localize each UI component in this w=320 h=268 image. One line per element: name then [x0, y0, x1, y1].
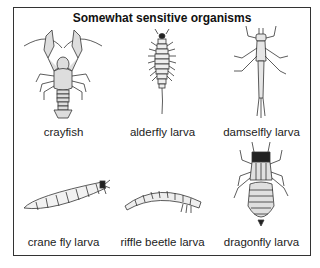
organism-label: riffle beetle larva — [113, 236, 212, 248]
organism-chart-frame: Somewhat sensitive organisms — [13, 7, 311, 256]
organism-label: crane fly larva — [14, 236, 113, 248]
organism-crane-fly-larva: crane fly larva — [14, 136, 113, 254]
damselfly-larva-icon — [212, 26, 311, 126]
organism-alderfly-larva: alderfly larva — [113, 26, 212, 144]
alderfly-larva-icon — [113, 26, 212, 126]
riffle-beetle-larva-icon — [113, 136, 212, 236]
chart-title: Somewhat sensitive organisms — [14, 11, 310, 25]
organism-dragonfly-larva: dragonfly larva — [212, 136, 311, 254]
crane-fly-larva-icon — [14, 136, 113, 236]
organism-label: dragonfly larva — [212, 236, 311, 248]
organism-crayfish: crayfish — [14, 26, 113, 144]
organism-damselfly-larva: damselfly larva — [212, 26, 311, 144]
dragonfly-larva-icon — [212, 136, 311, 236]
organism-riffle-beetle-larva: riffle beetle larva — [113, 136, 212, 254]
crayfish-icon — [14, 26, 113, 126]
